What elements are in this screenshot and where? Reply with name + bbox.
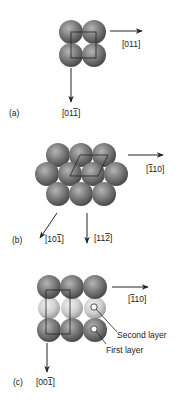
label-first-layer: First layer: [106, 345, 143, 355]
label-1bar10: [110]: [128, 294, 146, 304]
panel-c: Second layer First layer [110] [001] (c): [13, 275, 167, 387]
label-1bar10: [110]: [146, 164, 164, 174]
label-01-1bar: [011]: [62, 108, 80, 118]
panel-label-c: (c): [13, 377, 23, 387]
panel-b: [110] [101] [112] (b): [12, 143, 164, 245]
atom-spheres: [59, 20, 106, 67]
label-10-1bar: [101]: [45, 234, 64, 244]
panel-label-b: (b): [12, 235, 23, 245]
panel-label-a: (a): [9, 108, 20, 118]
label-second-layer: Second layer: [117, 330, 167, 340]
atom-spheres: [35, 143, 128, 206]
panel-a: [011] [011] (a): [9, 20, 142, 118]
label-11-2bar: [112]: [94, 233, 112, 243]
label-00-1bar: [001]: [36, 377, 55, 387]
label-011: [011]: [122, 39, 140, 49]
crystal-surface-diagram: [011] [011] (a) [110] [101] [112] (b): [0, 0, 181, 400]
